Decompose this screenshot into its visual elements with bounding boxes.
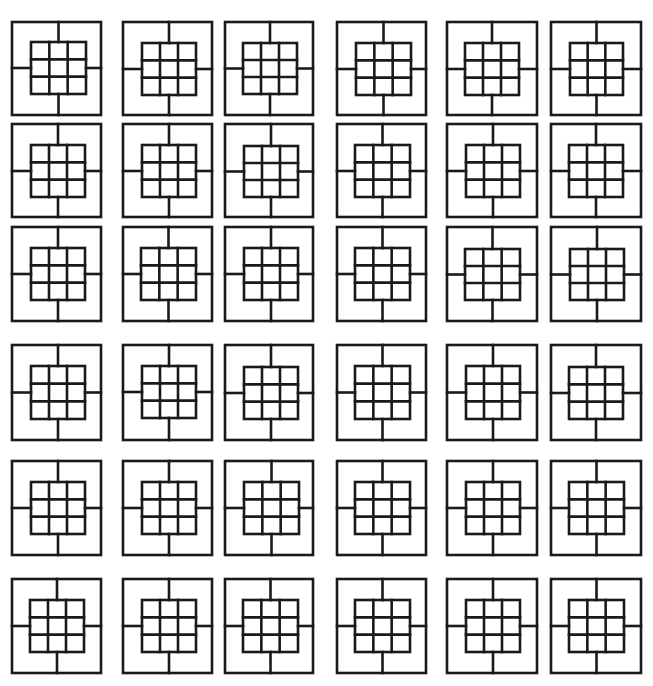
tile-r5-c5 [447,461,537,555]
tile-r2-c4 [337,124,426,217]
tile-r1-c5 [447,22,537,115]
tile-inner-grid [466,145,520,197]
tile-r6-c4 [337,579,426,673]
tile-inner-grid [243,600,298,652]
tile-r4-c3 [225,345,313,440]
tile-inner-grid [244,146,298,197]
tile-inner-grid [355,600,410,652]
tile-inner-grid [142,145,196,197]
tile-inner-grid [355,482,410,534]
tile-r6-c2 [123,579,212,673]
tile-inner-grid [466,366,520,419]
tile-inner-grid [569,145,623,197]
tile-r2-c2 [123,124,212,217]
tile-inner-grid [30,600,84,652]
tile-inner-grid [465,249,520,300]
tile-r1-c2 [123,22,212,115]
tile-inner-grid [141,248,196,300]
tile-r2-c3 [225,124,313,217]
tile-inner-grid [31,42,86,94]
tile-r4-c6 [551,345,641,440]
tile-r6-c3 [225,579,313,673]
tile-inner-grid [465,43,519,95]
tile-r6-c1 [12,579,101,673]
tile-r4-c2 [123,345,212,440]
tile-inner-grid [355,366,410,419]
tile-inner-grid [569,482,624,534]
tile-inner-grid [466,482,520,534]
tile-r5-c4 [337,461,426,555]
tile-r6-c6 [551,579,641,673]
tile-inner-grid [244,248,298,300]
tile-inner-grid [142,43,196,95]
tile-r3-c4 [337,227,426,321]
tile-r6-c5 [447,579,537,673]
tile-r2-c5 [447,124,537,217]
tile-inner-grid [244,482,299,534]
tile-r2-c6 [551,124,641,217]
tile-inner-grid [142,600,196,652]
tile-r4-c4 [337,345,426,440]
tile-inner-grid [466,600,520,652]
tile-r4-c5 [447,345,537,440]
tile-inner-grid [356,43,411,95]
tile-r3-c6 [551,227,641,321]
tile-r3-c3 [225,227,313,321]
tile-inner-grid [355,145,410,197]
tile-inner-grid [142,482,196,534]
tile-r5-c3 [225,461,313,555]
tile-r1-c4 [337,22,426,115]
tile-r5-c1 [12,461,101,555]
tile-r5-c2 [123,461,212,555]
tile-r1-c6 [551,22,641,115]
tile-r1-c3 [225,22,313,115]
tile-inner-grid [244,367,298,419]
tile-inner-grid [142,366,196,418]
tile-inner-grid [31,366,85,419]
tile-inner-grid [31,145,85,197]
tile-r3-c2 [123,227,212,321]
tile-inner-grid [570,43,623,95]
tile-r3-c1 [12,227,101,321]
tile-pattern-canvas [0,0,653,686]
tile-inner-grid [31,248,85,300]
tile-r3-c5 [447,227,537,321]
tile-r5-c6 [551,461,641,555]
tile-inner-grid [569,600,624,652]
tile-r1-c1 [12,22,101,115]
tile-r2-c1 [12,124,101,217]
tile-inner-grid [355,248,410,300]
tile-r4-c1 [12,345,101,440]
tile-inner-grid [31,482,85,534]
tile-pattern-svg [0,0,653,686]
tile-inner-grid [569,367,623,419]
tile-inner-grid [243,43,297,94]
tile-inner-grid [570,249,624,300]
